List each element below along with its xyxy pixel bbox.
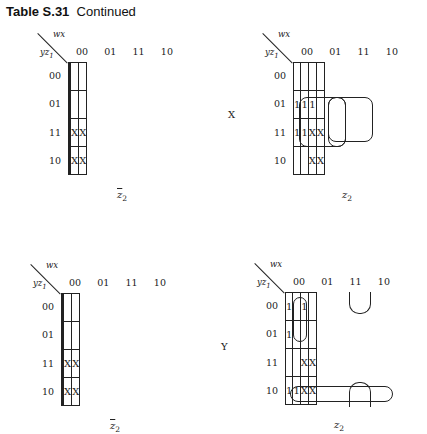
row-variable-subscript: 1 — [49, 52, 53, 60]
column-header: 00 — [61, 277, 89, 288]
row-variable-label: yz1 — [33, 278, 47, 291]
kmap-cell — [64, 294, 72, 322]
kmap-row — [62, 294, 80, 322]
kmap-cell — [71, 91, 79, 119]
row-header: 00 — [258, 300, 278, 311]
row-header: 10 — [34, 386, 54, 397]
grouping-loop — [293, 297, 307, 342]
column-variable-label: wx — [270, 259, 282, 269]
row-variable-subscript: 1 — [42, 283, 46, 291]
grouping-loop — [349, 292, 371, 314]
kmap-grid: XXXX — [61, 293, 80, 406]
row-header: 11 — [41, 127, 61, 138]
row-header: 10 — [266, 155, 286, 166]
kmap-cell: X — [79, 147, 87, 175]
table-title-suffix: Continued — [77, 4, 136, 19]
kmap-cell — [293, 349, 300, 377]
map-caption: z2 — [117, 189, 127, 203]
column-header: 00 — [285, 276, 313, 287]
kmap-row: XX — [62, 350, 80, 378]
kmap-cell — [301, 63, 308, 91]
row-header: 00 — [41, 70, 61, 81]
kmap-cell: X — [71, 119, 79, 147]
row-variable-label: yz1 — [257, 277, 271, 290]
row-variable-name: yz — [265, 47, 274, 57]
column-variable-label: wx — [278, 29, 290, 39]
kmap-row — [62, 322, 80, 350]
row-header: 10 — [41, 155, 61, 166]
kmap-cell — [71, 63, 79, 91]
row-variable-subscript: 1 — [266, 282, 270, 290]
column-header: 11 — [125, 46, 153, 57]
row-header: 00 — [266, 70, 286, 81]
map-caption: z2 — [110, 420, 120, 434]
row-header: 11 — [266, 127, 286, 138]
row-header: 11 — [34, 358, 54, 369]
kmap-row — [294, 63, 325, 91]
kmap-cell: X — [308, 349, 316, 377]
column-header: 10 — [146, 277, 174, 288]
caption-subscript: 2 — [122, 194, 127, 203]
kmap-cell — [308, 321, 316, 349]
kmap-cell — [64, 322, 72, 350]
row-variable-label: yz1 — [40, 47, 54, 60]
column-header: 01 — [321, 46, 349, 57]
kmap-cell: 1 — [286, 293, 293, 321]
column-header: 10 — [378, 46, 406, 57]
row-header: 10 — [258, 385, 278, 396]
column-header: 01 — [89, 277, 117, 288]
column-header: 10 — [370, 276, 398, 287]
column-header: 01 — [96, 46, 124, 57]
kmap-cell — [294, 63, 301, 91]
kmap-row: XX — [294, 147, 325, 175]
kmap-cell: X — [79, 119, 87, 147]
kmap-row — [69, 63, 87, 91]
kmap-cell — [308, 63, 316, 91]
column-header: 11 — [118, 277, 146, 288]
kmap-row — [69, 91, 87, 119]
column-variable-label: wx — [46, 260, 58, 270]
row-header: 01 — [266, 98, 286, 109]
column-header: 11 — [350, 46, 378, 57]
map-caption: z2 — [334, 419, 344, 433]
kmap-cell — [286, 349, 293, 377]
row-label-x: X — [228, 109, 235, 120]
kmap-grid: XXXX — [68, 62, 87, 175]
kmap-cell — [294, 147, 301, 175]
kmap-cell: X — [64, 378, 72, 406]
kmap-cell: X — [71, 147, 79, 175]
kmap-cell — [301, 147, 308, 175]
kmap-row: XX — [62, 378, 80, 406]
caption-subscript: 2 — [347, 194, 352, 203]
kmap-cell — [72, 294, 80, 322]
kmap-cell: X — [308, 147, 316, 175]
row-header: 00 — [34, 301, 54, 312]
kmap-cell — [316, 63, 324, 91]
column-header: 01 — [313, 276, 341, 287]
kmap-cell: 1 — [286, 321, 293, 349]
row-variable-name: yz — [40, 47, 49, 57]
row-variable-name: yz — [257, 277, 266, 287]
kmap-cell — [79, 63, 87, 91]
row-header: 01 — [34, 329, 54, 340]
kmap-cell: X — [316, 147, 324, 175]
column-variable-label: wx — [53, 29, 65, 39]
row-variable-label: yz1 — [265, 47, 279, 60]
column-header: 10 — [153, 46, 181, 57]
kmap-cell — [308, 293, 316, 321]
kmap-cell — [72, 322, 80, 350]
column-header: 00 — [68, 46, 96, 57]
column-header: 11 — [342, 276, 370, 287]
grouping-loop — [349, 382, 371, 407]
row-variable-name: yz — [33, 278, 42, 288]
kmap-row: XX — [69, 147, 87, 175]
table-title: Table S.31 Continued — [6, 4, 136, 19]
grouping-loop — [328, 97, 373, 142]
kmap-cell: X — [64, 350, 72, 378]
kmap-cell — [79, 91, 87, 119]
kmap-cell: X — [72, 350, 80, 378]
kmap-row: XX — [286, 349, 317, 377]
row-header: 11 — [258, 357, 278, 368]
kmap-cell: X — [72, 378, 80, 406]
caption-subscript: 2 — [339, 424, 344, 433]
